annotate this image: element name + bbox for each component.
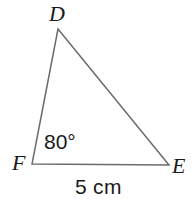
vertex-label-e: E [172,155,185,177]
vertex-label-d: D [49,3,65,25]
angle-label-f: 80° [44,131,76,152]
vertex-label-f: F [12,152,25,174]
triangle-shape [0,0,194,203]
triangle-figure: D F E 80° 5 cm [0,0,194,203]
side-length-label-fe: 5 cm [75,176,122,197]
